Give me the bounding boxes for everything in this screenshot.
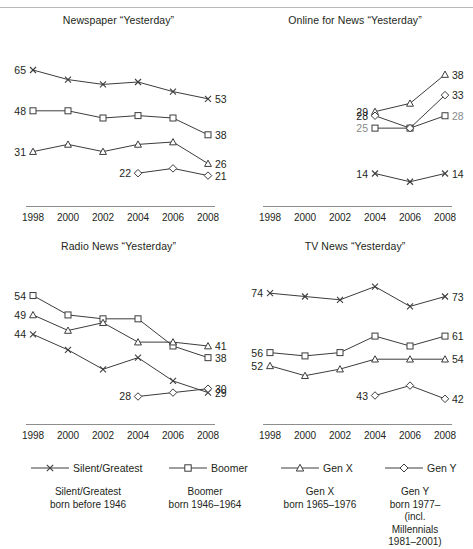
series-end-value-label: 21 [215, 170, 227, 182]
x-axis-tick-label: 2006 [399, 212, 421, 223]
square-marker-icon [205, 132, 211, 138]
triangle-marker-icon [30, 311, 37, 317]
square-marker-icon [30, 108, 36, 114]
square-marker-icon [30, 293, 36, 299]
series-end-value-label: 73 [452, 291, 464, 303]
series-canvas [237, 14, 473, 210]
diamond-marker-icon [204, 172, 212, 180]
x-axis-tick-label: 2008 [197, 430, 219, 441]
footnote-boomer: Boomerborn 1946–1964 [169, 486, 242, 511]
square-marker-icon [442, 333, 448, 339]
series-start-value-label: 31 [14, 146, 26, 158]
legend-item-boomer[interactable]: Boomer [168, 462, 248, 474]
legend-item-silent-greatest[interactable]: Silent/Greatest [30, 462, 142, 474]
triangle-marker-icon [65, 141, 72, 147]
footnote-line: born before 1946 [50, 499, 126, 512]
series-end-value-label: 53 [215, 93, 227, 105]
series-start-value-label: 22 [119, 167, 131, 179]
x-axis-tick-label: 2000 [294, 212, 316, 223]
diamond-marker-icon [384, 462, 424, 474]
series-end-value-label: 61 [452, 330, 464, 342]
diamond-marker-icon [400, 464, 408, 472]
panel-tv-news: TV News “Yesterday” 19982000200220042006… [237, 240, 473, 456]
diamond-marker-icon [169, 389, 177, 397]
series-boomer [30, 108, 211, 138]
x-marker-icon [30, 67, 36, 73]
x-marker-icon [135, 355, 141, 361]
series-start-value-label: 14 [356, 168, 368, 180]
x-axis-tick-label: 2006 [399, 430, 421, 441]
series-gen-y [134, 165, 212, 180]
triangle-marker-icon [267, 362, 274, 368]
x-axis-tick-label: 2004 [364, 430, 386, 441]
legend-item-label: Gen X [323, 462, 353, 474]
x-axis-tick-label: 1998 [259, 212, 281, 223]
series-boomer [267, 333, 448, 359]
x-axis-tick-label: 1998 [22, 212, 44, 223]
plot-area: 1998200020022004200620081414252829382833 [237, 14, 473, 236]
triangle-marker-icon [280, 462, 320, 474]
square-marker-icon [267, 350, 273, 356]
footnote-silent-greatest: Silent/Greatestborn before 1946 [50, 486, 126, 511]
square-marker-icon [185, 465, 191, 471]
panel-newspaper: Newspaper “Yesterday” 199820002002200420… [0, 14, 237, 236]
x-marker-icon [407, 303, 413, 309]
footnote-gen-y: Gen Yborn 1977–(incl. Millennials1981–20… [386, 486, 444, 549]
series-start-value-label: 49 [14, 309, 26, 321]
series-silent-greatest [267, 284, 448, 310]
series-silent-greatest [30, 331, 211, 395]
diamond-marker-icon [406, 382, 414, 390]
series-end-value-label: 26 [215, 158, 227, 170]
series-end-value-label: 41 [215, 340, 227, 352]
x-marker-icon [30, 462, 70, 474]
x-axis-tick-label: 2000 [57, 430, 79, 441]
series-canvas [237, 240, 473, 428]
series-start-value-label: 43 [356, 390, 368, 402]
footnote-line: Silent/Greatest [50, 486, 126, 499]
plot-area: 1998200020022004200620087473566152544342 [237, 240, 473, 456]
square-marker-icon [100, 115, 106, 121]
series-start-value-label: 25 [356, 122, 368, 134]
legend-item-gen-y[interactable]: Gen Y [384, 462, 457, 474]
legend-item-gen-x[interactable]: Gen X [280, 462, 353, 474]
legend-item-label: Silent/Greatest [73, 462, 142, 474]
triangle-marker-icon [205, 160, 212, 166]
series-gen-x [267, 356, 449, 379]
series-start-value-label: 44 [14, 328, 26, 340]
square-marker-icon [337, 350, 343, 356]
square-marker-icon [170, 115, 176, 121]
series-gen-y [134, 385, 212, 400]
footnote-gen-x: Gen Xborn 1965–1976 [284, 486, 357, 511]
x-axis-tick-label: 2002 [329, 430, 351, 441]
square-marker-icon [65, 108, 71, 114]
x-axis-tick-label: 1998 [22, 430, 44, 441]
series-end-value-label: 14 [452, 168, 464, 180]
series-gen-y [371, 91, 449, 132]
footnote-line: born 1977– [386, 499, 444, 512]
series-end-value-label: 38 [215, 129, 227, 141]
x-axis-tick-label: 2000 [57, 212, 79, 223]
series-gen-y [371, 382, 449, 403]
footnote-line: (incl. Millennials [386, 511, 444, 536]
footnote-line: Gen Y [386, 486, 444, 499]
x-axis-tick-label: 2006 [162, 212, 184, 223]
x-axis-tick-label: 2008 [434, 430, 456, 441]
series-canvas [0, 14, 237, 210]
x-axis-tick-label: 2008 [197, 212, 219, 223]
square-marker-icon [372, 125, 378, 131]
panel-radio-news: Radio News “Yesterday” 19982000200220042… [0, 240, 237, 456]
square-marker-icon [135, 113, 141, 119]
series-gen-x [30, 139, 212, 167]
panel-online-for-news: Online for News “Yesterday” 199820002002… [237, 14, 473, 236]
x-axis-tick-label: 2006 [162, 430, 184, 441]
x-marker-icon [372, 284, 378, 290]
series-start-value-label: 48 [14, 105, 26, 117]
legend: Silent/GreatestBoomerGen XGen Y [0, 462, 473, 478]
series-gen-x [372, 71, 449, 114]
legend-footnotes: Silent/Greatestborn before 1946Boomerbor… [0, 486, 473, 536]
top-divider-rule [0, 7, 473, 8]
series-gen-x [30, 311, 212, 348]
series-end-value-label: 42 [452, 393, 464, 405]
square-marker-icon [135, 316, 141, 322]
